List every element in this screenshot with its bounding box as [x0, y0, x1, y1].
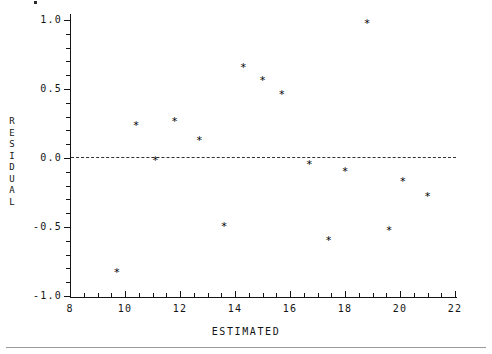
x-tick-minor: [373, 293, 374, 298]
x-tick-label: 16: [270, 303, 310, 314]
x-tick-minor: [414, 293, 415, 298]
x-tick-label: 22: [435, 303, 475, 314]
y-axis-title-letter: D: [6, 162, 18, 174]
x-tick-major: [70, 291, 71, 298]
y-tick-minor: [66, 144, 71, 145]
scatter-point: *: [132, 121, 141, 130]
y-tick-minor: [66, 75, 71, 76]
x-tick-minor: [428, 293, 429, 298]
x-tick-label: 12: [160, 303, 200, 314]
scatter-point: *: [324, 236, 333, 245]
scatter-point: *: [220, 222, 229, 231]
y-tick-label-wrap: -0.5: [14, 222, 62, 232]
scatter-point: *: [258, 76, 267, 85]
y-tick-major: [64, 20, 71, 21]
scatter-point: *: [305, 160, 314, 169]
y-tick-minor: [66, 268, 71, 269]
y-tick-label-wrap: -1.0: [14, 291, 62, 301]
y-tick-label-wrap: 1.0: [14, 15, 62, 25]
x-tick-minor: [221, 293, 222, 298]
scatter-point: *: [239, 63, 248, 72]
y-tick-minor: [66, 130, 71, 131]
x-tick-minor: [208, 293, 209, 298]
x-tick-minor: [386, 293, 387, 298]
x-tick-major: [290, 291, 291, 298]
x-tick-minor: [249, 293, 250, 298]
x-tick-minor: [111, 293, 112, 298]
x-tick-minor: [331, 293, 332, 298]
y-tick-minor: [66, 172, 71, 173]
top-speck: [34, 1, 37, 4]
x-tick-label: 10: [105, 303, 145, 314]
x-tick-minor: [98, 293, 99, 298]
scatter-point: *: [363, 19, 372, 28]
y-tick-minor: [66, 199, 71, 200]
y-tick-minor: [66, 282, 71, 283]
zero-reference-line: [71, 157, 456, 158]
x-tick-minor: [441, 293, 442, 298]
scatter-point: *: [423, 192, 432, 201]
scatter-point: *: [398, 177, 407, 186]
scatter-point: *: [112, 268, 121, 277]
scatter-point: *: [195, 136, 204, 145]
x-tick-minor: [263, 293, 264, 298]
y-tick-minor: [66, 117, 71, 118]
y-axis-title-letter: R: [6, 116, 18, 128]
x-tick-minor: [166, 293, 167, 298]
x-tick-label: 14: [215, 303, 255, 314]
y-tick-label: 1.0: [20, 15, 62, 25]
x-tick-minor: [139, 293, 140, 298]
y-tick-minor: [66, 48, 71, 49]
y-tick-minor: [66, 61, 71, 62]
y-tick-label-wrap: 0.5: [14, 84, 62, 94]
y-tick-minor: [66, 241, 71, 242]
residual-plot-figure: RESIDUAL -1.0-0.50.00.51.0 8101214161820…: [0, 0, 492, 354]
y-axis-title-letter: U: [6, 174, 18, 186]
scatter-point: *: [277, 90, 286, 99]
y-tick-label: 0.5: [20, 84, 62, 94]
scatter-point: *: [170, 117, 179, 126]
x-tick-minor: [276, 293, 277, 298]
y-tick-label: -0.5: [20, 222, 62, 232]
x-tick-major: [125, 291, 126, 298]
y-tick-major: [64, 158, 71, 159]
y-tick-major: [64, 227, 71, 228]
y-axis-title-letter: A: [6, 185, 18, 197]
x-tick-minor: [194, 293, 195, 298]
y-tick-minor: [66, 103, 71, 104]
x-tick-major: [400, 291, 401, 298]
y-tick-label: 0.0: [20, 153, 62, 163]
x-tick-major: [180, 291, 181, 298]
x-tick-minor: [318, 293, 319, 298]
y-tick-label: -1.0: [20, 291, 62, 301]
y-tick-minor: [66, 213, 71, 214]
x-tick-label: 20: [380, 303, 420, 314]
scatter-point: *: [151, 156, 160, 165]
y-tick-minor: [66, 186, 71, 187]
scatter-point: *: [385, 226, 394, 235]
y-axis-title-letter: S: [6, 139, 18, 151]
x-axis-title: ESTIMATED: [0, 326, 492, 337]
x-tick-minor: [153, 293, 154, 298]
y-axis-title-letter: L: [6, 197, 18, 209]
y-tick-major: [64, 89, 71, 90]
y-tick-label-wrap: 0.0: [14, 153, 62, 163]
x-tick-minor: [304, 293, 305, 298]
x-tick-label: 18: [325, 303, 365, 314]
x-tick-minor: [359, 293, 360, 298]
y-axis-title-letter: E: [6, 128, 18, 140]
x-tick-label: 8: [50, 303, 90, 314]
x-tick-major: [345, 291, 346, 298]
x-tick-major: [235, 291, 236, 298]
footer-rule: [6, 347, 486, 348]
y-tick-minor: [66, 255, 71, 256]
y-tick-minor: [66, 34, 71, 35]
scatter-point: *: [341, 167, 350, 176]
x-tick-major: [455, 291, 456, 298]
x-tick-minor: [84, 293, 85, 298]
